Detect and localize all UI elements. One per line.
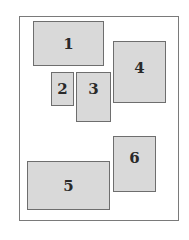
box-5-label: 5 (63, 177, 73, 195)
box-2-label: 2 (57, 80, 67, 98)
box-2: 2 (51, 72, 74, 106)
box-5: 5 (27, 161, 110, 210)
box-6: 6 (113, 136, 156, 192)
box-1-label: 1 (63, 35, 73, 53)
box-4-label: 4 (134, 59, 144, 77)
box-1: 1 (33, 21, 104, 66)
box-3-label: 3 (88, 80, 98, 98)
box-6-label: 6 (129, 149, 139, 167)
box-3: 3 (76, 72, 111, 122)
box-4: 4 (113, 41, 166, 103)
